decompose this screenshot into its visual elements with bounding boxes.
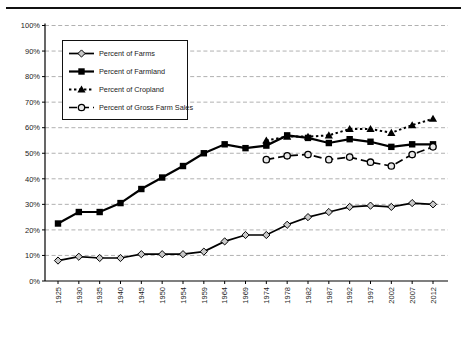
y-tick-label: 0% bbox=[29, 277, 40, 286]
y-tick-label: 10% bbox=[25, 251, 40, 260]
triangle-marker bbox=[366, 125, 374, 132]
triangle-marker bbox=[262, 136, 270, 143]
square-marker bbox=[138, 186, 144, 192]
x-tick-label: 1997 bbox=[366, 287, 375, 304]
chart-page: 0%10%20%30%40%50%60%70%80%90%100%1925193… bbox=[0, 0, 467, 338]
square-marker bbox=[221, 141, 227, 147]
circle-marker bbox=[346, 154, 352, 160]
diamond-marker bbox=[159, 251, 166, 258]
y-tick-label: 30% bbox=[25, 200, 40, 209]
square-marker bbox=[117, 200, 123, 206]
square-marker bbox=[76, 209, 82, 215]
square-marker bbox=[388, 144, 394, 150]
x-tick-label: 1964 bbox=[220, 287, 229, 304]
diamond-marker bbox=[138, 251, 145, 258]
y-tick-label: 20% bbox=[25, 226, 40, 235]
x-tick-label: 1978 bbox=[283, 287, 292, 304]
square-marker bbox=[367, 139, 373, 145]
farmland-line-marker-icon bbox=[68, 66, 95, 77]
y-tick-label: 90% bbox=[25, 47, 40, 56]
square-marker bbox=[180, 163, 186, 169]
square-marker bbox=[201, 150, 207, 156]
diamond-marker bbox=[325, 208, 332, 215]
diamond-marker bbox=[96, 254, 103, 261]
circle-marker bbox=[284, 153, 290, 159]
x-tick-label: 1940 bbox=[116, 287, 125, 304]
legend-label-cropland: Percent of Cropland bbox=[99, 85, 164, 94]
cropland-line-marker-icon bbox=[68, 84, 95, 95]
legend-item-gross-farm-sales: Percent of Gross Farm Sales bbox=[68, 102, 185, 113]
circle-marker bbox=[409, 151, 415, 157]
square-marker bbox=[78, 68, 84, 74]
x-tick-label: 1959 bbox=[200, 287, 209, 304]
legend-label-gross-farm-sales: Percent of Gross Farm Sales bbox=[99, 103, 193, 112]
diamond-marker bbox=[242, 231, 249, 238]
square-marker bbox=[159, 174, 165, 180]
triangle-marker bbox=[429, 115, 437, 122]
x-tick-label: 1992 bbox=[345, 287, 354, 304]
x-tick-label: 1935 bbox=[95, 287, 104, 304]
square-marker bbox=[242, 145, 248, 151]
x-tick-label: 1969 bbox=[241, 287, 250, 304]
diamond-marker bbox=[200, 248, 207, 255]
legend-item-cropland: Percent of Cropland bbox=[68, 84, 185, 95]
legend-item-farms: Percent of Farms bbox=[68, 48, 185, 59]
diamond-marker bbox=[179, 251, 186, 258]
farms-line-marker-icon bbox=[68, 48, 95, 59]
triangle-marker bbox=[387, 129, 395, 136]
diamond-marker bbox=[75, 253, 82, 260]
gross-farm-sales-line-marker-icon bbox=[68, 102, 95, 113]
x-tick-label: 1925 bbox=[54, 287, 63, 304]
triangle-marker bbox=[346, 125, 354, 132]
diamond-marker bbox=[284, 221, 291, 228]
y-tick-label: 60% bbox=[25, 123, 40, 132]
circle-marker bbox=[305, 151, 311, 157]
square-marker bbox=[55, 220, 61, 226]
x-tick-label: 1930 bbox=[75, 287, 84, 304]
diamond-marker bbox=[367, 202, 374, 209]
x-tick-label: 1945 bbox=[137, 287, 146, 304]
diamond-marker bbox=[304, 214, 311, 221]
diamond-marker bbox=[221, 238, 228, 245]
legend-item-farmland: Percent of Farmland bbox=[68, 66, 185, 77]
diamond-marker bbox=[429, 201, 436, 208]
legend-label-farms: Percent of Farms bbox=[99, 49, 155, 58]
diamond-marker bbox=[263, 231, 270, 238]
square-marker bbox=[409, 141, 415, 147]
y-tick-label: 40% bbox=[25, 175, 40, 184]
circle-marker bbox=[78, 104, 84, 110]
y-tick-label: 50% bbox=[25, 149, 40, 158]
x-tick-label: 1987 bbox=[325, 287, 334, 304]
square-marker bbox=[96, 209, 102, 215]
diamond-marker bbox=[54, 257, 61, 264]
circle-marker bbox=[367, 159, 373, 165]
x-tick-label: 1950 bbox=[158, 287, 167, 304]
square-marker bbox=[326, 140, 332, 146]
x-tick-label: 2007 bbox=[408, 287, 417, 304]
chart-legend: Percent of Farms Percent of Farmland Per… bbox=[62, 40, 188, 120]
circle-marker bbox=[430, 144, 436, 150]
circle-marker bbox=[388, 163, 394, 169]
diamond-marker bbox=[409, 199, 416, 206]
y-tick-label: 80% bbox=[25, 72, 40, 81]
x-tick-label: 1982 bbox=[304, 287, 313, 304]
diamond-marker bbox=[78, 49, 85, 56]
y-tick-label: 70% bbox=[25, 98, 40, 107]
x-tick-label: 1974 bbox=[262, 287, 271, 304]
circle-marker bbox=[326, 156, 332, 162]
legend-label-farmland: Percent of Farmland bbox=[99, 67, 165, 76]
square-marker bbox=[346, 136, 352, 142]
x-tick-label: 1954 bbox=[179, 287, 188, 304]
x-tick-label: 2012 bbox=[429, 287, 438, 304]
x-tick-label: 2002 bbox=[387, 287, 396, 304]
circle-marker bbox=[263, 156, 269, 162]
y-tick-label: 100% bbox=[21, 21, 41, 30]
